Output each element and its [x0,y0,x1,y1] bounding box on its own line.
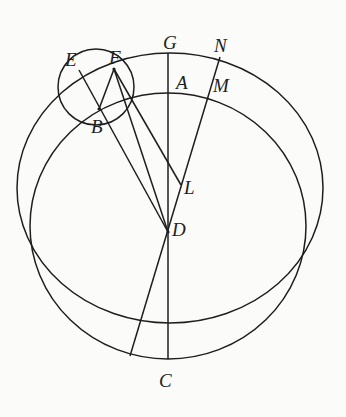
point-D [166,230,169,233]
label-N: N [214,36,227,55]
point-B [97,107,100,110]
label-A: A [176,73,188,92]
line-FL [114,69,181,185]
line-ND [130,57,220,356]
diagram-canvas: E F G N A M B L D C [0,0,346,417]
label-L: L [184,178,195,197]
label-E: E [65,50,77,69]
geometry-figure [0,0,346,417]
line-FB [99,69,114,109]
label-F: F [109,48,121,67]
label-M: M [213,76,229,95]
label-D: D [172,220,186,239]
label-B: B [91,117,103,136]
label-G: G [163,33,177,52]
label-C: C [159,371,172,390]
